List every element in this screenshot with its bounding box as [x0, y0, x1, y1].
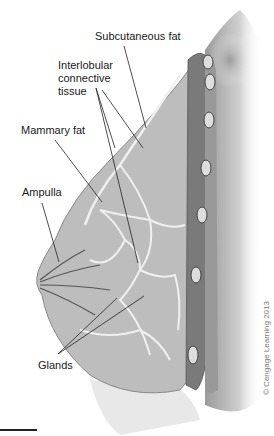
label-glands: Glands [38, 359, 73, 372]
label-subcutaneous-fat: Subcutaneous fat [95, 30, 181, 43]
label-mammary-fat: Mammary fat [21, 124, 85, 137]
copyright-notice: © Cengage Learning 2013 [262, 301, 271, 395]
scale-bar [0, 429, 37, 431]
breast-tissue [37, 55, 200, 393]
label-ampulla: Ampulla [22, 186, 62, 199]
label-interlobular-connective-tissue: Interlobular connective tissue [58, 59, 113, 98]
